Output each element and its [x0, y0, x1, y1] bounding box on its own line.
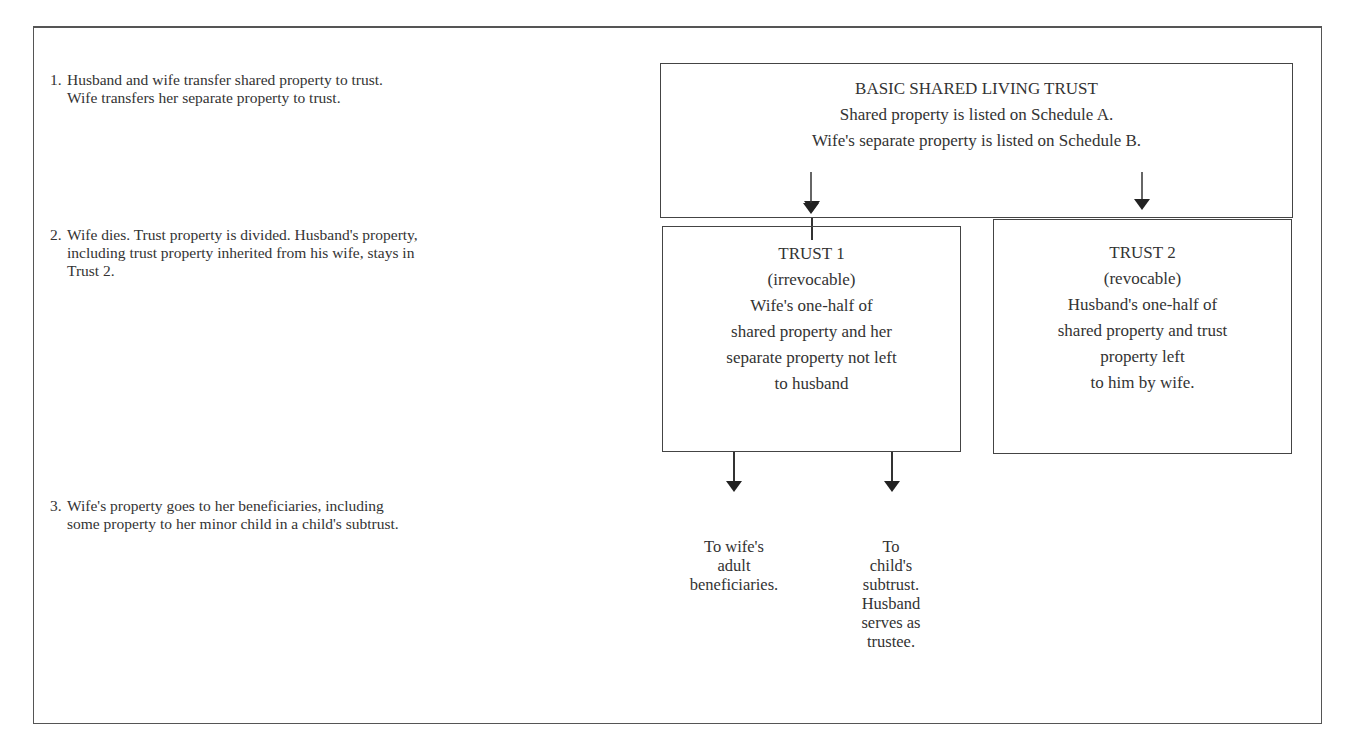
- step-text-line: including trust property inherited from …: [67, 244, 418, 262]
- trust-1-title: TRUST 1: [663, 241, 960, 267]
- leaf-line: Husband: [846, 594, 936, 613]
- trust-1-line: shared property and her: [663, 319, 960, 345]
- leaf-line: To: [846, 537, 936, 556]
- connector-line: [733, 452, 735, 482]
- step-text-line: Wife dies. Trust property is divided. Hu…: [67, 226, 418, 244]
- step-3: 3. Wife's property goes to her beneficia…: [50, 497, 399, 533]
- trust-1-line: Wife's one-half of: [663, 293, 960, 319]
- leaf-line: child's: [846, 556, 936, 575]
- step-number: 3.: [50, 497, 62, 515]
- arrow-down-icon: [726, 481, 742, 492]
- step-text-line: Wife transfers her separate property to …: [67, 89, 383, 107]
- step-2: 2. Wife dies. Trust property is divided.…: [50, 226, 418, 280]
- connector-line: [891, 452, 893, 482]
- root-trust-box: BASIC SHARED LIVING TRUST Shared propert…: [660, 63, 1293, 218]
- trust-2-line: property left: [994, 344, 1291, 370]
- step-number: 1.: [50, 71, 62, 89]
- leaf-line: beneficiaries.: [663, 575, 805, 594]
- step-text-line: Trust 2.: [67, 262, 418, 280]
- leaf-line: trustee.: [846, 632, 936, 651]
- leaf-line: To wife's: [663, 537, 805, 556]
- root-trust-title: BASIC SHARED LIVING TRUST: [661, 76, 1292, 102]
- step-text-line: some property to her minor child in a ch…: [67, 515, 399, 533]
- leaf-child-subtrust: To child's subtrust. Husband serves as t…: [846, 537, 936, 651]
- trust-2-box: TRUST 2 (revocable) Husband's one-half o…: [993, 219, 1292, 454]
- step-1: 1. Husband and wife transfer shared prop…: [50, 71, 383, 107]
- trust-1-box: TRUST 1 (irrevocable) Wife's one-half of…: [662, 226, 961, 452]
- trust-2-line: Husband's one-half of: [994, 292, 1291, 318]
- arrow-down-icon: [884, 481, 900, 492]
- trust-1-line: separate property not left: [663, 345, 960, 371]
- step-number: 2.: [50, 226, 62, 244]
- trust-1-line: to husband: [663, 371, 960, 397]
- trust-2-line: to him by wife.: [994, 370, 1291, 396]
- trust-2-subtitle: (revocable): [994, 266, 1291, 292]
- step-text-line: Wife's property goes to her beneficiarie…: [67, 497, 399, 515]
- trust-2-title: TRUST 2: [994, 240, 1291, 266]
- leaf-line: subtrust.: [846, 575, 936, 594]
- leaf-line: serves as: [846, 613, 936, 632]
- trust-1-subtitle: (irrevocable): [663, 267, 960, 293]
- leaf-adult-beneficiaries: To wife's adult beneficiaries.: [663, 537, 805, 594]
- leaf-line: adult: [663, 556, 805, 575]
- root-trust-line: Shared property is listed on Schedule A.: [661, 102, 1292, 128]
- root-trust-line: Wife's separate property is listed on Sc…: [661, 128, 1292, 154]
- arrow-down-icon: [804, 201, 820, 212]
- step-text-line: Husband and wife transfer shared propert…: [67, 71, 383, 89]
- trust-2-line: shared property and trust: [994, 318, 1291, 344]
